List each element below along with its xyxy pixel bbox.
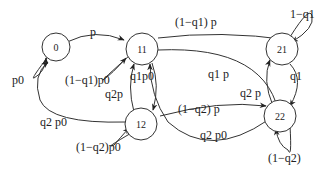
label-22-to-11: q2 p0	[200, 128, 227, 142]
label-12-to-11: q2p	[105, 87, 123, 101]
label-12-self: (1−q2)p0	[76, 140, 121, 154]
label-21-to-22: q1	[290, 69, 302, 83]
svg-text:12: 12	[136, 119, 146, 130]
label-0-self: p0	[12, 73, 24, 87]
svg-text:11: 11	[137, 44, 147, 55]
label-21-self: 1−q1	[290, 7, 315, 21]
edge-22-to-21	[267, 60, 273, 106]
label-0-to-11: p	[90, 25, 96, 39]
label-12-to-22: (1−q2) p	[178, 102, 220, 116]
node-11: 11	[126, 33, 158, 65]
label-11-self: (1−q1)p0	[65, 73, 110, 87]
label-11-to-22: q1 p	[208, 67, 229, 81]
label-22-self: (1−q2)	[268, 151, 301, 165]
svg-text:22: 22	[275, 111, 285, 122]
node-21: 21	[266, 33, 298, 65]
node-22: 22	[264, 100, 296, 132]
label-12-to-0: q2 p0	[40, 115, 67, 129]
svg-text:0: 0	[54, 42, 59, 53]
node-0: 0	[42, 33, 70, 61]
label-22-to-21: q2 p	[240, 86, 261, 100]
label-11-to-21: (1−q1) p	[175, 15, 217, 29]
label-11-to-12: q1p0	[130, 69, 154, 83]
node-12: 12	[125, 108, 157, 140]
state-diagram: 0 11 12 21 22 p p0 (1−q1)p0 (1−q1) p q1 …	[0, 0, 326, 173]
svg-text:21: 21	[277, 44, 287, 55]
